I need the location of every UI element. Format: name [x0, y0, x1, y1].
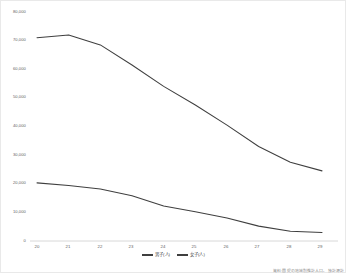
- legend-item-female[interactable]: 女子(人): [177, 252, 205, 258]
- series-line-female: [37, 183, 322, 233]
- x-tick-label: 25: [187, 244, 201, 250]
- x-tick-label: 28: [282, 244, 296, 250]
- x-tick-label: 22: [93, 244, 107, 250]
- x-tick-label: 26: [219, 244, 233, 250]
- x-tick-label: 24: [156, 244, 170, 250]
- legend-swatch-icon: [142, 254, 153, 255]
- line-chart: 80,000 70,000 60,000 50,000 40,000 30,00…: [0, 0, 347, 274]
- x-tick-label: 20: [30, 244, 44, 250]
- x-tick-label: 27: [250, 244, 264, 250]
- legend-label: 男子(人): [155, 252, 170, 258]
- chart-legend: 男子(人) 女子(人): [0, 252, 347, 258]
- series-line-male: [37, 35, 322, 171]
- legend-label: 女子(人): [190, 252, 205, 258]
- plot-svg: [0, 0, 347, 274]
- legend-item-male[interactable]: 男子(人): [142, 252, 170, 258]
- x-tick-label: 23: [124, 244, 138, 250]
- source-note: 資料:国提の地域別推計人口、独計源計: [273, 267, 344, 273]
- x-tick-label: 21: [61, 244, 75, 250]
- x-tick-label: 29: [313, 244, 327, 250]
- legend-swatch-icon: [177, 254, 188, 255]
